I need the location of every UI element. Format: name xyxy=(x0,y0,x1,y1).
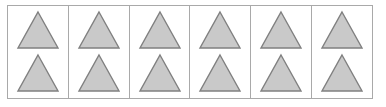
triangle-icon xyxy=(77,10,121,50)
triangle-icon xyxy=(198,53,242,93)
triangle-icon xyxy=(16,10,60,50)
shape-group-cell-2 xyxy=(69,6,130,98)
shape-group-cell-1 xyxy=(8,6,69,98)
triangle-icon xyxy=(259,10,303,50)
triangle-icon xyxy=(198,10,242,50)
triangle-icon xyxy=(77,53,121,93)
shape-group-cell-6 xyxy=(312,6,372,98)
shape-group-cell-3 xyxy=(130,6,191,98)
triangle-icon xyxy=(138,10,182,50)
shape-grid-frame xyxy=(7,5,373,99)
triangle-icon xyxy=(320,10,364,50)
figure-canvas xyxy=(0,0,386,107)
triangle-icon xyxy=(320,53,364,93)
triangle-icon xyxy=(138,53,182,93)
shape-group-cell-5 xyxy=(251,6,312,98)
triangle-icon xyxy=(259,53,303,93)
shape-group-cell-4 xyxy=(190,6,251,98)
triangle-icon xyxy=(16,53,60,93)
